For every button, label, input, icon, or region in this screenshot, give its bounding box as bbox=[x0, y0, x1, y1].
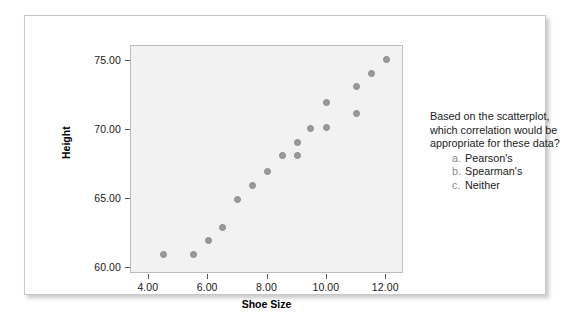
slide-card: 60.0065.0070.0075.00 Height 4.006.008.00… bbox=[24, 15, 546, 295]
question-line-1: Based on the scatterplot, bbox=[430, 110, 570, 124]
data-point bbox=[205, 237, 212, 244]
data-point bbox=[279, 152, 286, 159]
question-line-2: which correlation would be bbox=[430, 124, 570, 138]
x-axis-tick-label: 10.00 bbox=[301, 281, 351, 293]
question-line-3: appropriate for these data? bbox=[430, 137, 570, 151]
x-axis-tick-label: 4.00 bbox=[123, 281, 173, 293]
data-point bbox=[383, 56, 390, 63]
answer-choice-a[interactable]: a.Pearson's bbox=[430, 152, 570, 166]
data-point bbox=[368, 70, 375, 77]
data-point bbox=[323, 99, 330, 106]
y-axis-tick-mark bbox=[125, 129, 130, 130]
x-axis-tick-label: 6.00 bbox=[182, 281, 232, 293]
data-point bbox=[323, 124, 330, 131]
data-point bbox=[294, 152, 301, 159]
y-axis-tick-mark bbox=[125, 198, 130, 199]
x-axis-tick-mark bbox=[326, 274, 327, 279]
x-axis-tick-label: 12.00 bbox=[360, 281, 410, 293]
y-axis-tick-label: 70.00 bbox=[73, 123, 121, 135]
data-point bbox=[249, 182, 256, 189]
x-axis-tick-mark bbox=[148, 274, 149, 279]
y-axis-title: Height bbox=[60, 126, 72, 159]
slide-page: 60.0065.0070.0075.00 Height 4.006.008.00… bbox=[0, 0, 570, 319]
data-point bbox=[264, 168, 271, 175]
data-point bbox=[307, 125, 314, 132]
answer-choice-letter: a. bbox=[452, 152, 465, 166]
x-axis-tick-mark bbox=[385, 274, 386, 279]
answer-choice-letter: c. bbox=[452, 179, 465, 193]
answer-choice-letter: b. bbox=[452, 165, 465, 179]
data-point bbox=[234, 196, 241, 203]
y-axis-tick-label: 75.00 bbox=[73, 54, 121, 66]
answer-choice-text: Spearman's bbox=[465, 165, 522, 179]
question-block: Based on the scatterplot, which correlat… bbox=[430, 110, 570, 193]
plot-area bbox=[130, 45, 403, 273]
x-axis-title: Shoe Size bbox=[130, 298, 403, 310]
answer-choice-c[interactable]: c.Neither bbox=[430, 179, 570, 193]
x-axis-tick-mark bbox=[267, 274, 268, 279]
data-point bbox=[353, 110, 360, 117]
y-axis-tick-label: 60.00 bbox=[73, 261, 121, 273]
data-point bbox=[190, 251, 197, 258]
x-axis-tick-mark bbox=[207, 274, 208, 279]
scatterplot-figure: 60.0065.0070.0075.00 Height 4.006.008.00… bbox=[57, 26, 417, 286]
y-axis-tick-mark bbox=[125, 267, 130, 268]
x-axis-tick-label: 8.00 bbox=[242, 281, 292, 293]
data-point bbox=[219, 224, 226, 231]
y-axis-tick-mark bbox=[125, 60, 130, 61]
answer-choice-text: Neither bbox=[465, 179, 500, 193]
answer-choice-list: a.Pearson'sb.Spearman'sc.Neither bbox=[430, 152, 570, 193]
data-point bbox=[353, 83, 360, 90]
y-axis-tick-label: 65.00 bbox=[73, 192, 121, 204]
answer-choice-b[interactable]: b.Spearman's bbox=[430, 165, 570, 179]
answer-choice-text: Pearson's bbox=[465, 152, 513, 166]
data-point bbox=[160, 251, 167, 258]
data-point bbox=[294, 139, 301, 146]
